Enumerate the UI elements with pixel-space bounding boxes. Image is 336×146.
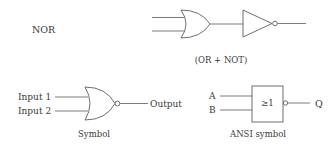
- input-1-label: Input 1: [18, 92, 51, 102]
- ansi-gate-text: ≥1: [261, 98, 274, 108]
- symbol-caption: Symbol: [78, 129, 110, 139]
- not-bubble-icon: [273, 21, 278, 26]
- nor-gate-icon: [85, 87, 115, 120]
- nor-symbol: Input 1 Input 2 Output: [18, 87, 182, 120]
- output-label: Output: [150, 99, 182, 109]
- or-gate-icon: [181, 10, 210, 38]
- or-not-composition: [152, 10, 306, 38]
- input-2-label: Input 2: [18, 106, 51, 116]
- not-gate-icon: [243, 10, 272, 37]
- ansi-bubble-icon: [283, 101, 287, 105]
- nor-bubble-icon: [115, 101, 120, 106]
- nor-title: NOR: [32, 24, 56, 35]
- ansi-output-label: Q: [315, 98, 323, 109]
- ansi-symbol: A B ≥1 Q: [208, 86, 323, 122]
- input-b-label: B: [209, 105, 216, 115]
- ansi-caption: ANSI symbol: [229, 129, 286, 139]
- input-a-label: A: [208, 91, 216, 101]
- nor-gate-diagram: NOR (OR + NOT) Input 1 Input 2 Output Sy…: [0, 0, 336, 146]
- top-caption: (OR + NOT): [195, 55, 248, 65]
